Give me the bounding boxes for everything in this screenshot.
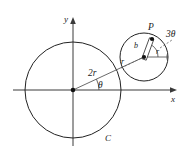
label-b: b: [134, 41, 138, 50]
origin-dot: [71, 88, 76, 93]
epicycloid-figure: y x 2r θ 3θ r r b P C: [0, 0, 191, 162]
label-point-p: P: [147, 22, 154, 32]
label-r-inner: r: [156, 47, 160, 56]
figure-canvas: y x 2r θ 3θ r r b P C: [0, 0, 191, 162]
x-axis-label: x: [170, 94, 175, 104]
label-theta: θ: [98, 80, 103, 90]
y-axis-arrowhead: [70, 17, 76, 24]
rolling-circle-center-dot: [142, 55, 146, 59]
x-axis-arrowhead: [170, 87, 177, 93]
axes-group: [13, 17, 177, 146]
label-2r: 2r: [88, 68, 97, 78]
label-r-outer: r: [121, 57, 125, 66]
label-3theta: 3θ: [165, 29, 176, 39]
label-curve-c: C: [105, 133, 112, 143]
point-p-dot: [150, 37, 154, 41]
y-axis-label: y: [63, 14, 68, 24]
